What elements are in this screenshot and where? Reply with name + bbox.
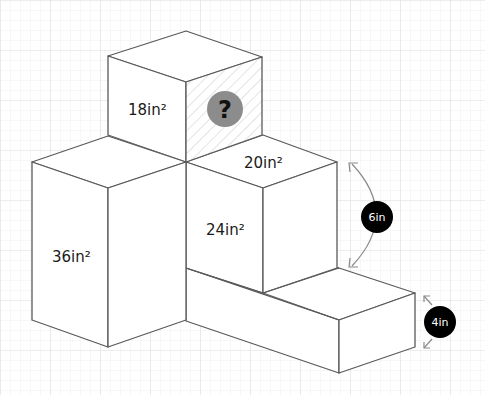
height-badge-label: 6in xyxy=(368,211,385,224)
top-cube xyxy=(108,31,262,162)
label-20in2: 20in² xyxy=(244,154,283,172)
diagram-svg: 18in² 20in² 24in² 36in² ? 6in 4in xyxy=(0,0,485,395)
svg-text:?: ? xyxy=(218,96,232,124)
left-box xyxy=(32,136,186,347)
label-18in2: 18in² xyxy=(128,101,167,119)
label-36in2: 36in² xyxy=(52,248,91,266)
left-box-right-face xyxy=(108,162,186,347)
label-24in2: 24in² xyxy=(206,221,245,239)
depth-badge-label: 4in xyxy=(431,316,448,329)
question-mark-icon: ? xyxy=(207,91,243,127)
diagram-canvas: 18in² 20in² 24in² 36in² ? 6in 4in xyxy=(0,0,485,395)
